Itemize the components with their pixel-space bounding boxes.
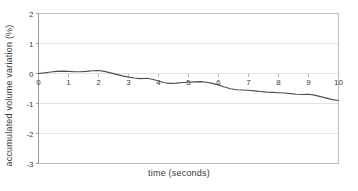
x-axis-title: time (seconds) — [0, 168, 358, 178]
line-chart-plot: 210-1-2-3 012345678910 — [0, 0, 358, 191]
x-tick-label: 8 — [276, 78, 281, 87]
plot-background — [39, 14, 339, 164]
y-axis-tick-labels: 210-1-2-3 — [26, 10, 38, 169]
x-tick-label: 1 — [66, 78, 71, 87]
x-tick-label: 2 — [96, 78, 101, 87]
chart-container: 210-1-2-3 012345678910 accumulated volum… — [0, 0, 358, 191]
x-tick-label: 4 — [156, 78, 161, 87]
x-tick-label: 9 — [306, 78, 311, 87]
y-tick-label: -1 — [26, 100, 34, 109]
y-tick-label: 2 — [29, 10, 34, 19]
y-tick-label: -2 — [26, 130, 34, 139]
y-axis-title: accumulated volume variation (%) — [0, 0, 18, 191]
x-tick-label: 10 — [334, 78, 343, 87]
y-tick-label: 0 — [29, 70, 34, 79]
x-tick-label: 3 — [126, 78, 131, 87]
x-tick-label: 0 — [36, 78, 41, 87]
x-tick-label: 7 — [246, 78, 251, 87]
y-tick-label: 1 — [29, 40, 34, 49]
